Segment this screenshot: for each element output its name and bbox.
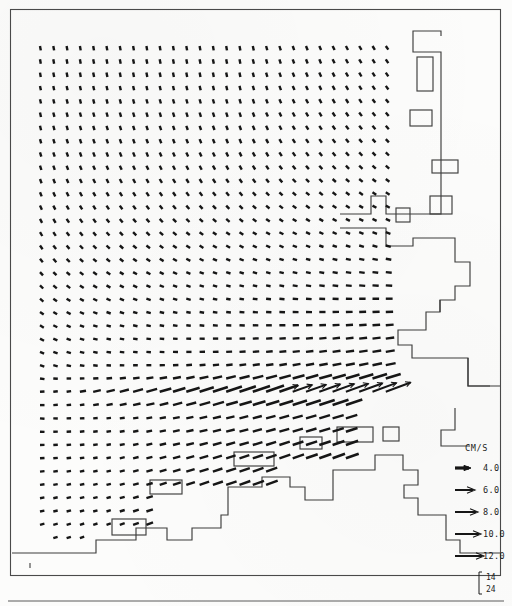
current-vector xyxy=(107,497,111,498)
current-vector xyxy=(107,139,109,143)
current-vector xyxy=(93,259,96,262)
current-vector xyxy=(226,46,227,50)
current-vector xyxy=(253,86,254,90)
current-vector xyxy=(107,179,109,183)
current-vector xyxy=(386,73,389,77)
current-vector xyxy=(226,232,230,235)
current-vector xyxy=(120,312,124,313)
current-vector xyxy=(359,126,362,130)
current-vector xyxy=(266,73,267,77)
current-vector xyxy=(200,179,202,183)
current-vector xyxy=(93,246,96,249)
current-vector xyxy=(146,312,150,313)
current-vector xyxy=(346,232,350,234)
current-vector xyxy=(53,325,57,327)
current-vector xyxy=(386,374,401,379)
current-vector xyxy=(346,351,354,352)
current-vector xyxy=(160,444,166,446)
current-vector xyxy=(306,59,308,63)
current-vector xyxy=(373,192,377,195)
current-vector xyxy=(200,365,206,366)
current-vector xyxy=(80,285,84,288)
current-vector xyxy=(346,179,349,182)
legend-arrow-head xyxy=(464,465,471,470)
current-vector xyxy=(120,390,129,392)
current-vector xyxy=(319,415,330,418)
current-vector xyxy=(80,352,84,353)
current-vector xyxy=(146,179,148,183)
current-vector xyxy=(67,352,71,353)
current-vector xyxy=(40,339,44,341)
current-vector xyxy=(80,405,85,406)
current-vector xyxy=(186,232,190,235)
current-vector xyxy=(120,206,123,210)
current-vector xyxy=(93,510,97,511)
current-vector xyxy=(359,325,366,326)
current-vector xyxy=(186,192,189,196)
current-vector xyxy=(146,152,148,156)
current-vector xyxy=(133,59,134,63)
current-vector xyxy=(333,285,339,286)
current-vector xyxy=(306,415,316,418)
current-vector xyxy=(253,259,257,261)
current-vector xyxy=(266,152,268,156)
current-vector xyxy=(306,99,308,103)
current-vector xyxy=(373,338,381,339)
current-vector xyxy=(333,338,340,339)
legend-value: 8.0 xyxy=(483,507,500,517)
current-vector xyxy=(53,179,55,183)
current-vector xyxy=(386,139,389,142)
current-vector xyxy=(133,510,139,512)
current-vector xyxy=(226,192,229,196)
current-vector xyxy=(319,246,323,248)
current-vector xyxy=(333,206,337,208)
current-vector xyxy=(200,139,202,143)
current-vector xyxy=(293,364,301,365)
current-vector xyxy=(120,325,124,326)
current-vector xyxy=(146,417,152,418)
current-vector xyxy=(133,166,135,170)
current-vector xyxy=(226,246,230,248)
current-vector xyxy=(107,126,108,130)
current-vector xyxy=(319,46,321,50)
current-vector xyxy=(226,430,235,432)
current-vector xyxy=(93,46,94,50)
current-vector xyxy=(346,206,350,208)
current-vector xyxy=(120,179,122,183)
current-vector xyxy=(279,86,281,90)
current-vector xyxy=(279,285,284,286)
current-vector xyxy=(253,139,255,143)
current-vector xyxy=(107,471,111,472)
current-vector xyxy=(253,219,257,222)
current-vector xyxy=(200,443,208,445)
current-vector xyxy=(173,272,177,274)
current-vector xyxy=(279,166,282,170)
current-vector xyxy=(53,139,54,143)
current-vector xyxy=(107,86,108,90)
current-vector xyxy=(67,46,68,50)
current-vector xyxy=(67,497,71,498)
current-vector xyxy=(319,166,322,169)
legend-value: 10.0 xyxy=(483,529,505,539)
coastline-group xyxy=(12,31,500,553)
current-vector xyxy=(133,444,138,445)
current-vector xyxy=(386,46,389,50)
current-vector xyxy=(359,152,362,155)
vector-field-figure: CM/S4.06.08.010.012.0 14 24 xyxy=(0,0,512,606)
current-vector xyxy=(146,259,150,261)
current-vector xyxy=(373,46,375,50)
current-vector xyxy=(373,139,376,142)
current-vector xyxy=(213,387,228,392)
current-vector xyxy=(186,430,193,432)
current-vector xyxy=(293,219,297,221)
current-vector xyxy=(120,59,121,63)
current-vector xyxy=(93,73,94,77)
current-vector xyxy=(133,232,136,235)
current-vector xyxy=(133,523,139,525)
current-vector xyxy=(93,299,97,301)
current-vector xyxy=(253,73,254,77)
current-vector xyxy=(53,272,56,275)
current-vector xyxy=(120,378,126,379)
current-vector xyxy=(319,219,323,221)
current-vector xyxy=(319,338,326,339)
